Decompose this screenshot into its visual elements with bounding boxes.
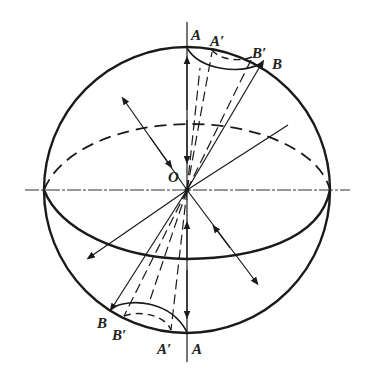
label-top-A: A — [190, 27, 201, 43]
sphere-diagram: O A A′ B′ B B B′ A′ A — [0, 0, 366, 378]
label-bottom-B: B — [96, 315, 107, 331]
label-top-B-prime: B′ — [251, 45, 266, 61]
label-bottom-A-prime: A′ — [156, 341, 171, 357]
label-top-B: B — [271, 56, 282, 72]
center-point — [185, 188, 190, 193]
label-bottom-A: A — [191, 341, 202, 357]
label-bottom-B-prime: B′ — [111, 327, 126, 343]
label-center-O: O — [168, 169, 179, 185]
label-top-A-prime: A′ — [209, 33, 224, 49]
diagram-canvas: O A A′ B′ B B B′ A′ A — [0, 0, 366, 378]
